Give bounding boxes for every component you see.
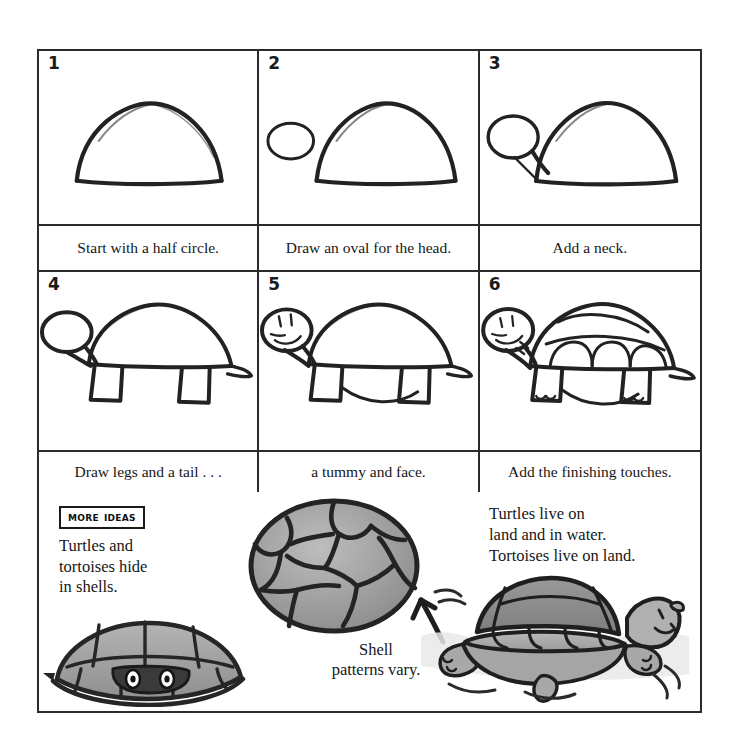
turtles-live-caption: Turtles live on land and in water. Torto…: [489, 504, 635, 567]
step-caption-1: Start with a half circle.: [39, 224, 257, 270]
illustration-frame: 1 Start with a half circle. 2: [37, 49, 702, 713]
step-caption-6: Add the finishing touches.: [480, 450, 700, 492]
steps-grid: 1 Start with a half circle. 2: [39, 51, 700, 492]
step-caption-2: Draw an oval for the head.: [259, 224, 477, 270]
step-panel-6: 6: [480, 272, 700, 493]
step-caption-3: Add a neck.: [480, 224, 700, 270]
step-art-4: [39, 288, 257, 428]
step-panel-1: 1 Start with a half circle.: [39, 51, 259, 272]
turtle-hiding-in-shell-art: [39, 607, 267, 707]
step-panel-2: 2 Draw an oval for the head.: [259, 51, 479, 272]
turtle-in-water-art: [421, 570, 691, 710]
step-panel-3: 3 Add a neck.: [480, 51, 700, 272]
more-ideas-panel: More Ideas Turtles and tortoises hide in…: [39, 492, 700, 711]
turtles-hide-caption: Turtles and tortoises hide in shells.: [59, 536, 147, 598]
step-art-3: [480, 69, 700, 221]
step-caption-5: a tummy and face.: [259, 450, 477, 492]
step-caption-4: Draw legs and a tail . . .: [39, 450, 257, 492]
step-panel-5: 5: [259, 272, 479, 493]
shell-top-view-art: [239, 494, 429, 639]
step-panel-4: 4: [39, 272, 259, 493]
step-art-2: [259, 69, 477, 221]
step-art-6: [480, 288, 700, 428]
step-art-5: [259, 288, 477, 428]
step-art-1: [39, 69, 257, 221]
more-ideas-badge: More Ideas: [59, 506, 145, 529]
